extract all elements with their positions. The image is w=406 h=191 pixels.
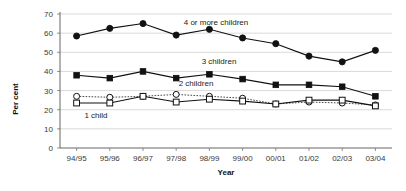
data-point-marker <box>207 72 213 78</box>
x-axis-title: Year <box>218 168 235 177</box>
y-axis-title: Per cent <box>11 83 20 115</box>
x-tick-label: 95/96 <box>100 154 121 163</box>
series-annotation-label: 4 or more children <box>184 18 248 27</box>
y-tick-label: 10 <box>44 125 53 134</box>
data-point-marker <box>207 96 213 102</box>
data-point-marker <box>372 47 378 53</box>
y-tick-label: 20 <box>44 106 53 115</box>
data-point-marker <box>240 35 246 41</box>
data-point-marker <box>306 97 312 103</box>
y-tick-label: 0 <box>49 144 54 153</box>
data-point-marker <box>140 69 146 75</box>
data-point-marker <box>273 41 279 47</box>
line-chart: 010203040506070 94/9595/9696/9797/9898/9… <box>0 0 406 191</box>
data-point-marker <box>74 72 80 78</box>
chart-canvas: 010203040506070 94/9595/9696/9797/9898/9… <box>0 0 406 191</box>
data-point-marker <box>339 84 345 90</box>
y-tick-label: 60 <box>44 29 53 38</box>
x-tick-label: 03/04 <box>365 154 386 163</box>
x-tick-label: 97/98 <box>166 154 187 163</box>
data-point-marker <box>140 93 146 99</box>
data-point-marker <box>240 76 246 82</box>
data-point-marker <box>140 20 146 26</box>
data-point-marker <box>306 53 312 59</box>
data-point-marker <box>173 99 179 105</box>
x-tick-label: 94/95 <box>67 154 88 163</box>
data-point-marker <box>173 32 179 38</box>
data-point-marker <box>74 33 80 39</box>
data-point-marker <box>74 93 80 99</box>
data-point-marker <box>107 25 113 31</box>
data-point-marker <box>74 100 80 106</box>
x-tick-label: 02/03 <box>332 154 353 163</box>
series-annotation-label: 2 children <box>179 79 214 88</box>
y-tick-label: 50 <box>44 48 53 57</box>
data-point-marker <box>339 59 345 65</box>
data-point-marker <box>273 82 279 88</box>
data-point-marker <box>373 103 379 109</box>
x-tick-label: 99/00 <box>233 154 254 163</box>
x-tick-label: 96/97 <box>133 154 154 163</box>
data-point-marker <box>206 26 212 32</box>
x-tick-label: 00/01 <box>266 154 287 163</box>
y-tick-label: 30 <box>44 87 53 96</box>
data-point-marker <box>107 94 113 100</box>
data-point-marker <box>373 94 379 100</box>
series-annotation-label: 3 children <box>202 57 237 66</box>
series-annotation-label: 1 child <box>84 111 107 120</box>
data-point-marker <box>273 101 279 107</box>
y-tick-label: 40 <box>44 67 53 76</box>
data-point-marker <box>173 91 179 97</box>
x-tick-label: 98/99 <box>199 154 220 163</box>
data-point-marker <box>107 100 113 106</box>
data-point-marker <box>240 98 246 104</box>
x-tick-label: 01/02 <box>299 154 320 163</box>
y-tick-label: 70 <box>44 10 53 19</box>
data-point-marker <box>306 82 312 88</box>
data-point-marker <box>339 97 345 103</box>
data-point-marker <box>107 75 113 81</box>
